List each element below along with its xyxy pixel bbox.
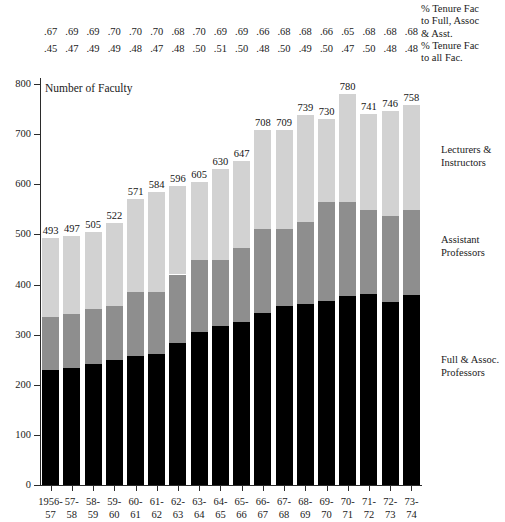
bar-group[interactable] bbox=[212, 169, 229, 485]
bar-segment-lecturers-instructors[interactable] bbox=[85, 232, 102, 309]
bar-segment-full-assoc-professors[interactable] bbox=[382, 302, 399, 485]
bar-segment-assistant-professors[interactable] bbox=[403, 210, 420, 295]
bar-segment-assistant-professors[interactable] bbox=[339, 202, 356, 296]
bar-segment-lecturers-instructors[interactable] bbox=[297, 115, 314, 222]
bar-segment-assistant-professors[interactable] bbox=[212, 260, 229, 326]
bar-total-label: 780 bbox=[331, 81, 365, 92]
bar-segment-assistant-professors[interactable] bbox=[276, 229, 293, 306]
bar-segment-assistant-professors[interactable] bbox=[318, 202, 335, 301]
y-tick-label: 200 bbox=[0, 380, 31, 391]
bar-group[interactable] bbox=[297, 115, 314, 485]
bar-segment-assistant-professors[interactable] bbox=[254, 229, 271, 313]
x-tick-mark bbox=[327, 486, 328, 491]
bar-segment-assistant-professors[interactable] bbox=[42, 317, 59, 370]
tenure-row-full-assoc-asst: .67.69.69.70.70.70.68.70.69.69.66.68.68.… bbox=[0, 24, 505, 39]
bar-segment-lecturers-instructors[interactable] bbox=[106, 223, 123, 305]
bar-segment-assistant-professors[interactable] bbox=[191, 260, 208, 331]
bar-segment-assistant-professors[interactable] bbox=[360, 210, 377, 294]
x-tick-mark bbox=[178, 486, 179, 491]
bar-segment-full-assoc-professors[interactable] bbox=[85, 364, 102, 485]
bar-segment-assistant-professors[interactable] bbox=[169, 275, 186, 344]
bar-group[interactable] bbox=[148, 192, 165, 485]
bar-group[interactable] bbox=[233, 161, 250, 485]
bar-segment-assistant-professors[interactable] bbox=[127, 292, 144, 356]
bar-segment-full-assoc-professors[interactable] bbox=[339, 296, 356, 485]
y-tick-label: 800 bbox=[0, 79, 31, 90]
bar-group[interactable] bbox=[382, 111, 399, 485]
bar-segment-full-assoc-professors[interactable] bbox=[403, 295, 420, 485]
bar-segment-lecturers-instructors[interactable] bbox=[276, 130, 293, 229]
bar-segment-lecturers-instructors[interactable] bbox=[148, 192, 165, 291]
bar-group[interactable] bbox=[318, 119, 335, 485]
bar-total-label: 709 bbox=[267, 117, 301, 128]
bar-segment-assistant-professors[interactable] bbox=[85, 309, 102, 364]
bar-segment-assistant-professors[interactable] bbox=[106, 306, 123, 360]
bar-group[interactable] bbox=[403, 105, 420, 485]
plot-area bbox=[40, 84, 422, 485]
bar-segment-lecturers-instructors[interactable] bbox=[63, 236, 80, 314]
bar-segment-full-assoc-professors[interactable] bbox=[106, 360, 123, 485]
bar-total-label: 647 bbox=[225, 148, 259, 159]
x-axis-line bbox=[40, 485, 422, 486]
y-tick-label: 400 bbox=[0, 280, 31, 291]
tenure-value-all-fac: .48 bbox=[398, 41, 424, 56]
y-tick-label: 600 bbox=[0, 179, 31, 190]
bar-group[interactable] bbox=[42, 238, 59, 485]
x-label-line-2: 74 bbox=[396, 509, 426, 522]
bar-group[interactable] bbox=[85, 232, 102, 485]
y-tick-label: 0 bbox=[0, 480, 31, 491]
bar-segment-assistant-professors[interactable] bbox=[63, 314, 80, 369]
bar-group[interactable] bbox=[127, 199, 144, 485]
bar-segment-full-assoc-professors[interactable] bbox=[212, 326, 229, 485]
bar-segment-full-assoc-professors[interactable] bbox=[42, 370, 59, 485]
bar-group[interactable] bbox=[106, 223, 123, 485]
bar-segment-lecturers-instructors[interactable] bbox=[233, 161, 250, 249]
bar-segment-assistant-professors[interactable] bbox=[233, 248, 250, 322]
bar-group[interactable] bbox=[360, 114, 377, 485]
bar-group[interactable] bbox=[254, 130, 271, 485]
tenure-value-full-assoc-asst: .68 bbox=[398, 24, 424, 39]
x-tick-mark bbox=[411, 486, 412, 491]
bar-segment-full-assoc-professors[interactable] bbox=[360, 294, 377, 485]
bar-segment-full-assoc-professors[interactable] bbox=[169, 343, 186, 485]
bar-group[interactable] bbox=[339, 94, 356, 485]
bar-segment-full-assoc-professors[interactable] bbox=[318, 301, 335, 485]
bar-group[interactable] bbox=[276, 130, 293, 485]
series-label-line-2: Professors bbox=[441, 367, 485, 378]
bar-group[interactable] bbox=[63, 236, 80, 485]
bar-segment-lecturers-instructors[interactable] bbox=[254, 130, 271, 229]
bar-segment-assistant-professors[interactable] bbox=[297, 222, 314, 304]
series-label-line-1: Lecturers & bbox=[441, 144, 491, 155]
bar-segment-lecturers-instructors[interactable] bbox=[169, 186, 186, 274]
bar-group[interactable] bbox=[191, 182, 208, 485]
bar-segment-lecturers-instructors[interactable] bbox=[191, 182, 208, 261]
series-label-full-assoc-professors: Full & Assoc.Professors bbox=[441, 354, 505, 379]
bar-segment-full-assoc-professors[interactable] bbox=[63, 368, 80, 485]
bar-total-label: 758 bbox=[394, 92, 428, 103]
x-tick-mark bbox=[348, 486, 349, 491]
bar-segment-lecturers-instructors[interactable] bbox=[318, 119, 335, 202]
x-tick-mark bbox=[284, 486, 285, 491]
bar-segment-lecturers-instructors[interactable] bbox=[403, 105, 420, 210]
x-tick-mark bbox=[369, 486, 370, 491]
bar-segment-full-assoc-professors[interactable] bbox=[127, 356, 144, 485]
series-label-assistant-professors: AssistantProfessors bbox=[441, 234, 505, 259]
bar-segment-full-assoc-professors[interactable] bbox=[148, 354, 165, 485]
series-label-line-2: Professors bbox=[441, 247, 485, 258]
bar-segment-full-assoc-professors[interactable] bbox=[254, 313, 271, 485]
bar-segment-full-assoc-professors[interactable] bbox=[191, 332, 208, 485]
bar-segment-full-assoc-professors[interactable] bbox=[297, 304, 314, 485]
bar-segment-lecturers-instructors[interactable] bbox=[382, 111, 399, 216]
x-tick-mark bbox=[157, 486, 158, 491]
series-label-lecturers-instructors: Lecturers &Instructors bbox=[441, 144, 505, 169]
bar-segment-lecturers-instructors[interactable] bbox=[212, 169, 229, 260]
bar-group[interactable] bbox=[169, 186, 186, 485]
bar-segment-lecturers-instructors[interactable] bbox=[360, 114, 377, 211]
bar-segment-full-assoc-professors[interactable] bbox=[276, 306, 293, 485]
bar-segment-full-assoc-professors[interactable] bbox=[233, 322, 250, 485]
y-tick-label: 300 bbox=[0, 330, 31, 341]
x-tick-mark bbox=[72, 486, 73, 491]
bar-segment-lecturers-instructors[interactable] bbox=[42, 238, 59, 317]
bar-segment-assistant-professors[interactable] bbox=[148, 292, 165, 354]
bar-segment-assistant-professors[interactable] bbox=[382, 216, 399, 301]
